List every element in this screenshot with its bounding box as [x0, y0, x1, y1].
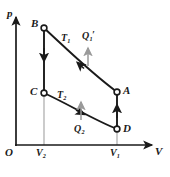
state-point-b — [41, 25, 47, 31]
point-label-b: B — [31, 18, 38, 29]
heat-label-q1-prime: Q1′ — [82, 30, 95, 42]
heat-label-q2: Q2 — [74, 124, 85, 135]
state-point-d — [114, 126, 120, 132]
isotherm-curve-t1 — [44, 28, 117, 92]
axis-label-volume: V — [155, 146, 162, 157]
axis-origin-label: O — [5, 147, 13, 158]
axis-label-pressure: p — [7, 8, 13, 19]
pv-diagram-figure: p V O V2 V1 B C A D T1 T2 Q1′ Q2 — [0, 0, 170, 177]
tick-label-v1-sub: 1 — [117, 152, 120, 159]
tick-label-v2: V2 — [36, 148, 46, 159]
diagram-canvas — [0, 0, 170, 177]
point-label-d: D — [123, 123, 131, 134]
heat-label-q1-prime-mark: ′ — [92, 29, 95, 40]
tick-label-v2-sub: 2 — [43, 152, 46, 159]
tick-label-v1: V1 — [110, 148, 120, 159]
state-point-c — [41, 90, 47, 96]
tick-label-v2-base: V — [36, 147, 43, 158]
state-point-a — [114, 89, 120, 95]
isotherm-label-t1: T1 — [61, 33, 70, 44]
heat-label-q2-sub: 2 — [81, 128, 84, 135]
isotherm-label-t1-sub: 1 — [67, 37, 70, 44]
point-label-a: A — [123, 85, 130, 96]
point-label-c: C — [30, 86, 37, 97]
isotherm-label-t2: T2 — [57, 90, 66, 101]
isotherm-label-t2-sub: 2 — [63, 94, 66, 101]
tick-label-v1-base: V — [110, 147, 117, 158]
